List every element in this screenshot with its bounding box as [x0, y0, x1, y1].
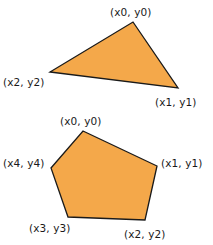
triangle-vertex-label-2: (x2, y2) [3, 76, 44, 88]
polygon-figure: (x0, y0) (x1, y1) (x2, y2) (x0, y0) (x1,… [0, 0, 213, 245]
pentagon-vertex-label-2: (x2, y2) [124, 228, 165, 240]
triangle-vertex-label-0: (x0, y0) [110, 6, 151, 18]
pentagon-shape [51, 131, 157, 220]
triangle-shape [50, 22, 178, 88]
pentagon-vertex-label-3: (x3, y3) [29, 222, 70, 234]
pentagon-vertex-label-1: (x1, y1) [161, 157, 202, 169]
polygon-canvas [0, 0, 213, 245]
triangle-vertex-label-1: (x1, y1) [155, 96, 196, 108]
pentagon-vertex-label-4: (x4, y4) [3, 157, 44, 169]
pentagon-vertex-label-0: (x0, y0) [60, 115, 101, 127]
